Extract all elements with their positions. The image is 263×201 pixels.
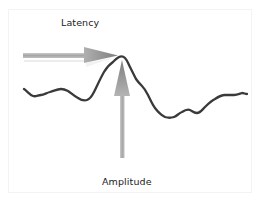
amplitude-arrow-icon [114,60,130,158]
latency-arrow-icon [23,47,118,67]
waveform-diagram [0,0,263,201]
amplitude-label: Amplitude [102,176,152,187]
latency-label: Latency [61,17,99,28]
waveform-trace [24,56,247,117]
